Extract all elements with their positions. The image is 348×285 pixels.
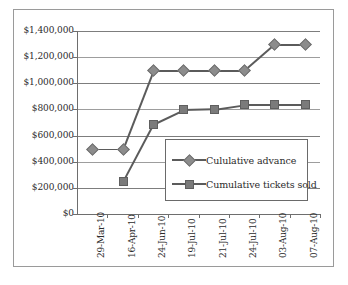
x-axis-tick	[168, 214, 169, 218]
data-point-marker[interactable]	[270, 100, 279, 109]
data-point-marker[interactable]	[117, 143, 130, 156]
data-point-marker[interactable]	[208, 64, 221, 77]
y-axis-tick	[73, 57, 78, 58]
legend-item[interactable]: Cumulative tickets sold	[166, 172, 307, 196]
y-axis-tick-label: $1,200,000	[23, 51, 74, 61]
x-axis-tick-label: 19-Jul-10	[187, 219, 197, 258]
legend-marker	[185, 180, 194, 189]
y-axis-tick	[73, 83, 78, 84]
x-axis-tick	[107, 214, 108, 218]
y-axis-tick-label: $600,000	[32, 130, 74, 140]
x-axis-tick	[138, 214, 139, 218]
data-point-marker[interactable]	[301, 100, 310, 109]
y-axis-tick-label: $1,000,000	[23, 77, 74, 87]
x-axis-tick-label: 03-Aug-10	[278, 213, 288, 258]
y-axis-tick-label: $200,000	[32, 182, 74, 192]
x-axis-tick	[199, 214, 200, 218]
legend-label: Cululative advance	[206, 155, 296, 166]
x-axis-tick	[229, 214, 230, 218]
x-axis-tick-label: 21-Jul-10	[218, 219, 228, 258]
x-axis-tick-label: 16-Apr-10	[127, 214, 137, 258]
x-axis-tick	[320, 214, 321, 218]
gridline	[77, 31, 320, 32]
gridline	[77, 136, 320, 137]
y-axis-tick-label: $800,000	[32, 103, 74, 113]
legend-label: Cumulative tickets sold	[206, 179, 317, 190]
data-point-marker[interactable]	[149, 120, 158, 129]
y-axis-tick	[73, 214, 78, 215]
y-axis-tick	[73, 162, 78, 163]
x-axis-tick-label: 24-Jul-10	[248, 219, 258, 258]
data-point-marker[interactable]	[147, 64, 160, 77]
x-axis-tick-label: 29-Mar-10	[96, 212, 106, 258]
y-axis-tick-label: $400,000	[32, 156, 74, 166]
data-point-marker[interactable]	[119, 177, 128, 186]
legend-marker-diamond-icon	[172, 153, 206, 167]
data-point-marker[interactable]	[240, 100, 249, 109]
legend-item[interactable]: Cululative advance	[166, 148, 307, 172]
x-axis-tick-label: 24-Jun-10	[157, 216, 167, 258]
y-axis-tick	[73, 31, 78, 32]
y-axis-tick	[73, 136, 78, 137]
chart-frame: $1,400,000$1,200,000$1,000,000$800,000$6…	[13, 9, 334, 267]
data-point-marker[interactable]	[177, 64, 190, 77]
y-axis-tick-label: $0	[63, 208, 74, 218]
y-axis-tick	[73, 109, 78, 110]
x-axis-tick-label: 07-Aug-10	[309, 213, 319, 258]
chart-legend: Cululative advanceCumulative tickets sol…	[165, 139, 308, 201]
legend-marker-square-icon	[172, 177, 206, 191]
data-point-marker[interactable]	[86, 143, 99, 156]
y-axis-tick	[73, 188, 78, 189]
y-axis-labels: $1,400,000$1,200,000$1,000,000$800,000$6…	[14, 10, 74, 268]
x-axis-tick	[290, 214, 291, 218]
series-line-segment	[122, 124, 154, 182]
data-point-marker[interactable]	[210, 105, 219, 114]
gridline	[77, 83, 320, 84]
y-axis-tick-label: $1,400,000	[23, 25, 74, 35]
gridline	[77, 57, 320, 58]
legend-marker	[183, 154, 196, 167]
data-point-marker[interactable]	[299, 38, 312, 51]
data-point-marker[interactable]	[179, 105, 188, 114]
x-axis-tick	[259, 214, 260, 218]
